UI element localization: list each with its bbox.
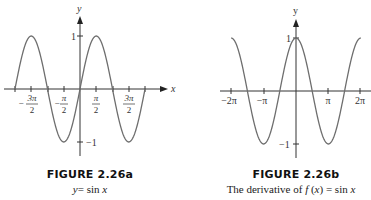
subtitle-var-x: x — [102, 183, 107, 195]
x-tick-label-neg3pi2-den: 2 — [30, 105, 35, 115]
x-tick-label-pi2-num: π — [94, 93, 99, 103]
subtitle-eq: = sin — [78, 183, 103, 195]
x-tick-label-3pi2-num: 3π — [123, 93, 134, 103]
figure-a-title: FIGURE 2.26a — [0, 168, 180, 181]
x-tick-label-neg2pi: −2π — [221, 95, 237, 106]
y-axis-label: y — [293, 5, 298, 16]
y-tick-label-1: 1 — [71, 31, 76, 42]
y-tick-label-1: 1 — [286, 33, 291, 44]
x-tick-label-negpi2-num: π — [62, 93, 67, 103]
y-tick-label-neg1: −1 — [86, 137, 97, 148]
y-tick-label-neg1: −1 — [279, 139, 290, 150]
subtitle-text: The derivative of — [227, 183, 306, 195]
x-axis-arrow-icon — [160, 86, 168, 92]
subtitle-x2: x — [350, 183, 355, 195]
x-tick-label-pi: π — [325, 95, 330, 106]
x-tick-label-neg3pi2-sign: − — [18, 98, 23, 108]
y-axis-label: y — [76, 3, 82, 14]
x-tick-label-pi2-den: 2 — [94, 105, 99, 115]
figure-b-subtitle: The derivative of f (x) = sin x — [196, 183, 371, 195]
figure-a-plot: x y 1 −1 − 3π 2 − π — [4, 3, 176, 156]
x-tick-label-3pi2-den: 2 — [127, 105, 132, 115]
figure-b-title: FIGURE 2.26b — [206, 168, 371, 181]
y-axis-arrow-icon — [77, 16, 83, 24]
x-tick-label-negpi2-sign: − — [54, 98, 59, 108]
x-tick-label-2pi: 2π — [355, 95, 365, 106]
subtitle-eq: ) = sin — [320, 183, 351, 195]
x-tick-label-neg3pi2-num: 3π — [26, 93, 37, 103]
x-axis-label: x — [170, 83, 176, 94]
figure-b-plot: y 1 −1 −2π −π π 2π — [220, 5, 371, 158]
x-tick-label-negpi: −π — [257, 95, 268, 106]
y-axis-arrow-icon — [293, 19, 299, 27]
x-tick-label-negpi2-den: 2 — [62, 105, 67, 115]
figure-a-subtitle: y= sin x — [0, 183, 180, 195]
